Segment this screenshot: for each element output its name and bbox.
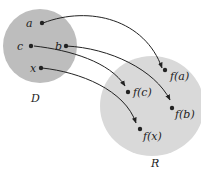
label-fb: f(b) [174,108,195,121]
function-mapping-diagram: a c b x f(a) f(c) f(b) f(x) D R [0,0,201,172]
domain-set-label: D [30,92,40,105]
point-fc [126,90,130,94]
label-a: a [26,17,33,30]
label-fx: f(x) [142,130,162,143]
point-fb [170,106,174,110]
point-fa [163,68,167,72]
point-x [39,66,43,70]
point-c [29,44,33,48]
label-fc: f(c) [132,86,152,99]
point-a [40,21,44,25]
label-fa: f(a) [169,70,189,83]
label-b: b [55,40,62,53]
point-b [64,44,68,48]
label-x: x [30,62,37,75]
range-set-label: R [150,157,159,170]
label-c: c [17,40,23,53]
point-fx [138,127,142,131]
